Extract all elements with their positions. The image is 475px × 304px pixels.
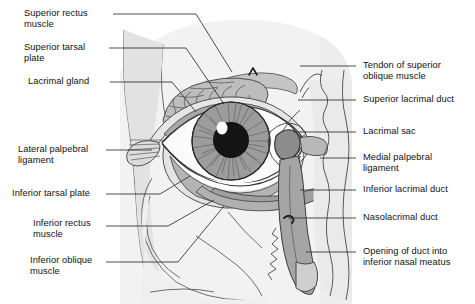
- label-inferior-oblique-muscle: Inferior oblique muscle: [30, 255, 92, 278]
- label-superior-rectus-muscle: Superior rectus muscle: [24, 8, 88, 31]
- label-tendon-of-superior-oblique-muscle: Tendon of superior oblique muscle: [363, 60, 441, 83]
- label-nasolacrimal-duct: Nasolacrimal duct: [363, 212, 438, 223]
- lacrimal-sac: [275, 130, 300, 159]
- label-lacrimal-sac: Lacrimal sac: [363, 126, 416, 137]
- label-opening-of-duct-into-inferior-nasal-meatus: Opening of duct into inferior nasal meat…: [363, 246, 450, 269]
- label-inferior-rectus-muscle: Inferior rectus muscle: [33, 218, 91, 241]
- label-inferior-lacrimal-duct: Inferior lacrimal duct: [363, 184, 448, 195]
- label-medial-palpebral-ligament: Medial palpebral ligament: [363, 152, 432, 175]
- duct-opening: [296, 262, 318, 292]
- anatomy-figure: Superior rectus muscle Superior tarsal p…: [0, 0, 475, 304]
- corneal-highlight: [217, 122, 228, 135]
- label-superior-lacrimal-duct: Superior lacrimal duct: [363, 94, 454, 105]
- label-lateral-palpebral-ligament: Lateral palpebral ligament: [18, 144, 88, 167]
- label-superior-tarsal-plate: Superior tarsal plate: [24, 42, 85, 65]
- label-inferior-tarsal-plate: Inferior tarsal plate: [12, 188, 90, 199]
- medial-palpebral-ligament: [300, 136, 328, 155]
- label-lacrimal-gland: Lacrimal gland: [28, 76, 89, 87]
